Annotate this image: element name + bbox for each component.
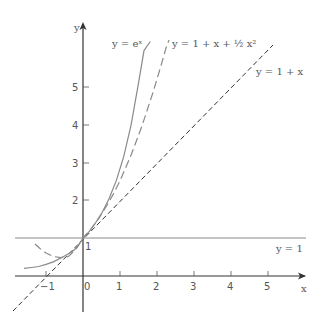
label-quadratic: y = 1 + x + ½ x²	[171, 38, 256, 49]
curve-quadratic	[35, 40, 169, 258]
x-tick-label: 1	[116, 281, 122, 292]
x-tick-label: 5	[264, 281, 270, 292]
line-y-equals-1-plus-x	[13, 45, 273, 311]
x-tick-label: 4	[227, 281, 233, 292]
y-axis-label: y	[73, 22, 80, 33]
y-ticks	[83, 87, 89, 200]
x-tick-label: 0	[84, 281, 90, 292]
y-tick-label: 2	[72, 195, 78, 206]
x-tick-label: 3	[190, 281, 196, 292]
chart-canvas: −1 0 1 2 3 4 5 2 3 4 5 1 y x y = eˣ y = …	[0, 0, 326, 330]
intercept-label: 1	[85, 241, 91, 252]
x-ticks	[46, 271, 268, 276]
label-constant: y = 1	[275, 243, 303, 254]
y-tick-label: 4	[72, 120, 78, 131]
label-exp: y = eˣ	[111, 38, 143, 49]
x-axis-label: x	[301, 283, 307, 294]
x-tick-label: −1	[40, 281, 55, 292]
label-linear: y = 1 + x	[255, 66, 303, 77]
x-tick-label: 2	[153, 281, 159, 292]
y-tick-label: 5	[72, 82, 78, 93]
y-tick-label: 3	[72, 158, 78, 169]
